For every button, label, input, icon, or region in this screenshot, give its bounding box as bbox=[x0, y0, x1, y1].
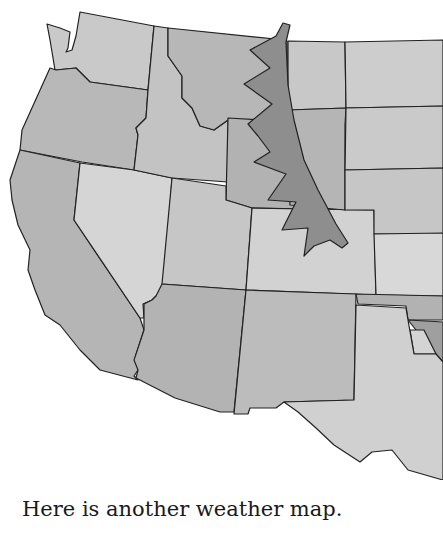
state-kansas bbox=[374, 233, 443, 296]
state-arizona bbox=[134, 284, 246, 412]
state-new-mexico bbox=[234, 290, 356, 414]
weather-map bbox=[0, 0, 443, 480]
state-iowa bbox=[345, 106, 443, 170]
state-minnesota bbox=[345, 40, 443, 108]
state-north-dakota bbox=[288, 41, 346, 110]
caption-text: Here is another weather map. bbox=[22, 497, 342, 521]
